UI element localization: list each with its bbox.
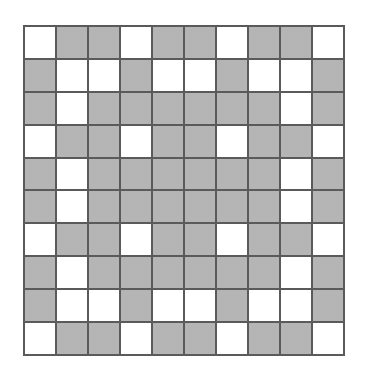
white-cell-r8-c4 xyxy=(153,290,183,321)
gray-cell-r2-c9 xyxy=(313,93,343,124)
white-cell-r2-c1 xyxy=(57,93,87,124)
white-cell-r0-c0 xyxy=(25,27,55,58)
white-cell-r9-c3 xyxy=(121,323,151,354)
gray-cell-r2-c4 xyxy=(153,93,183,124)
gray-cell-r8-c9 xyxy=(313,290,343,321)
white-cell-r0-c6 xyxy=(217,27,247,58)
gray-cell-r5-c7 xyxy=(249,191,279,222)
gray-cell-r6-c5 xyxy=(185,224,215,255)
gray-cell-r9-c7 xyxy=(249,323,279,354)
gray-cell-r4-c2 xyxy=(89,159,119,190)
gray-cell-r1-c3 xyxy=(121,60,151,91)
white-cell-r8-c8 xyxy=(281,290,311,321)
white-cell-r0-c3 xyxy=(121,27,151,58)
gray-cell-r5-c6 xyxy=(217,191,247,222)
white-cell-r7-c1 xyxy=(57,257,87,288)
white-cell-r5-c1 xyxy=(57,191,87,222)
gray-cell-r6-c7 xyxy=(249,224,279,255)
gray-cell-r5-c5 xyxy=(185,191,215,222)
white-cell-r2-c8 xyxy=(281,93,311,124)
gray-cell-r3-c5 xyxy=(185,126,215,157)
gray-cell-r1-c9 xyxy=(313,60,343,91)
white-cell-r7-c8 xyxy=(281,257,311,288)
gray-cell-r9-c4 xyxy=(153,323,183,354)
gray-cell-r5-c3 xyxy=(121,191,151,222)
gray-cell-r3-c2 xyxy=(89,126,119,157)
gray-cell-r4-c4 xyxy=(153,159,183,190)
gray-cell-r4-c5 xyxy=(185,159,215,190)
gray-cell-r9-c1 xyxy=(57,323,87,354)
gray-cell-r6-c8 xyxy=(281,224,311,255)
gray-cell-r7-c0 xyxy=(25,257,55,288)
gray-cell-r0-c4 xyxy=(153,27,183,58)
gray-cell-r7-c3 xyxy=(121,257,151,288)
gray-cell-r3-c7 xyxy=(249,126,279,157)
white-cell-r6-c3 xyxy=(121,224,151,255)
gray-cell-r5-c0 xyxy=(25,191,55,222)
gray-cell-r2-c2 xyxy=(89,93,119,124)
gray-cell-r2-c6 xyxy=(217,93,247,124)
white-cell-r9-c0 xyxy=(25,323,55,354)
gray-cell-r4-c3 xyxy=(121,159,151,190)
gray-cell-r8-c0 xyxy=(25,290,55,321)
white-cell-r1-c1 xyxy=(57,60,87,91)
white-cell-r0-c9 xyxy=(313,27,343,58)
gray-cell-r4-c9 xyxy=(313,159,343,190)
white-cell-r1-c2 xyxy=(89,60,119,91)
white-cell-r4-c1 xyxy=(57,159,87,190)
gray-cell-r7-c2 xyxy=(89,257,119,288)
white-cell-r6-c0 xyxy=(25,224,55,255)
gray-cell-r6-c1 xyxy=(57,224,87,255)
white-cell-r1-c8 xyxy=(281,60,311,91)
gray-cell-r0-c2 xyxy=(89,27,119,58)
white-cell-r1-c7 xyxy=(249,60,279,91)
gray-cell-r5-c4 xyxy=(153,191,183,222)
gray-cell-r3-c4 xyxy=(153,126,183,157)
gray-cell-r7-c9 xyxy=(313,257,343,288)
white-cell-r9-c6 xyxy=(217,323,247,354)
gray-cell-r0-c1 xyxy=(57,27,87,58)
gray-cell-r9-c2 xyxy=(89,323,119,354)
gray-cell-r7-c7 xyxy=(249,257,279,288)
gray-cell-r3-c1 xyxy=(57,126,87,157)
white-cell-r1-c4 xyxy=(153,60,183,91)
gray-cell-r7-c6 xyxy=(217,257,247,288)
white-cell-r8-c7 xyxy=(249,290,279,321)
white-cell-r3-c9 xyxy=(313,126,343,157)
gray-cell-r0-c7 xyxy=(249,27,279,58)
gray-cell-r6-c4 xyxy=(153,224,183,255)
gray-cell-r5-c9 xyxy=(313,191,343,222)
white-cell-r8-c5 xyxy=(185,290,215,321)
white-cell-r8-c2 xyxy=(89,290,119,321)
white-cell-r8-c1 xyxy=(57,290,87,321)
gray-cell-r4-c0 xyxy=(25,159,55,190)
white-cell-r6-c9 xyxy=(313,224,343,255)
gray-cell-r2-c0 xyxy=(25,93,55,124)
gray-cell-r0-c8 xyxy=(281,27,311,58)
gray-cell-r2-c7 xyxy=(249,93,279,124)
gray-cell-r9-c5 xyxy=(185,323,215,354)
white-cell-r4-c8 xyxy=(281,159,311,190)
gray-cell-r4-c7 xyxy=(249,159,279,190)
white-cell-r3-c0 xyxy=(25,126,55,157)
gray-cell-r2-c5 xyxy=(185,93,215,124)
white-cell-r5-c8 xyxy=(281,191,311,222)
gray-cell-r3-c8 xyxy=(281,126,311,157)
white-cell-r3-c6 xyxy=(217,126,247,157)
white-cell-r9-c9 xyxy=(313,323,343,354)
gray-cell-r7-c4 xyxy=(153,257,183,288)
gray-cell-r5-c2 xyxy=(89,191,119,222)
gray-cell-r7-c5 xyxy=(185,257,215,288)
gray-cell-r4-c6 xyxy=(217,159,247,190)
gray-cell-r1-c0 xyxy=(25,60,55,91)
white-cell-r3-c3 xyxy=(121,126,151,157)
cell-grid xyxy=(23,25,345,356)
gray-cell-r6-c2 xyxy=(89,224,119,255)
white-cell-r1-c5 xyxy=(185,60,215,91)
gray-cell-r9-c8 xyxy=(281,323,311,354)
gray-cell-r8-c3 xyxy=(121,290,151,321)
white-cell-r6-c6 xyxy=(217,224,247,255)
gray-cell-r8-c6 xyxy=(217,290,247,321)
gray-cell-r2-c3 xyxy=(121,93,151,124)
gray-cell-r0-c5 xyxy=(185,27,215,58)
